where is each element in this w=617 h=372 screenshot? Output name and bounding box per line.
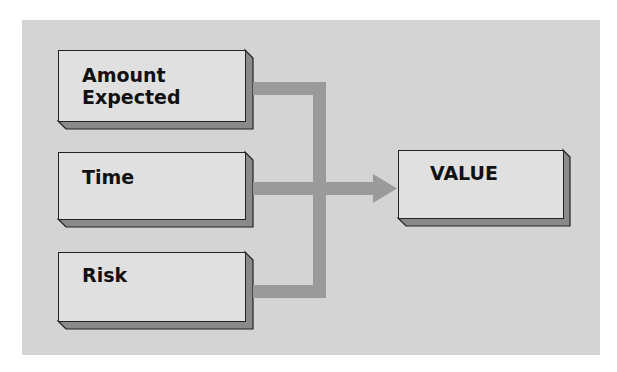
label-line-2: Expected xyxy=(82,86,181,108)
input-label-risk: Risk xyxy=(82,264,127,286)
input-label-time: Time xyxy=(82,166,134,188)
input-label-amount-expected: Amount Expected xyxy=(82,64,181,108)
label-line-1: Amount xyxy=(82,64,181,86)
arrow-head-icon xyxy=(373,174,397,203)
output-label-value: VALUE xyxy=(430,162,498,184)
connector-risk xyxy=(253,285,326,298)
connector-time-arrow-shaft xyxy=(253,182,373,195)
